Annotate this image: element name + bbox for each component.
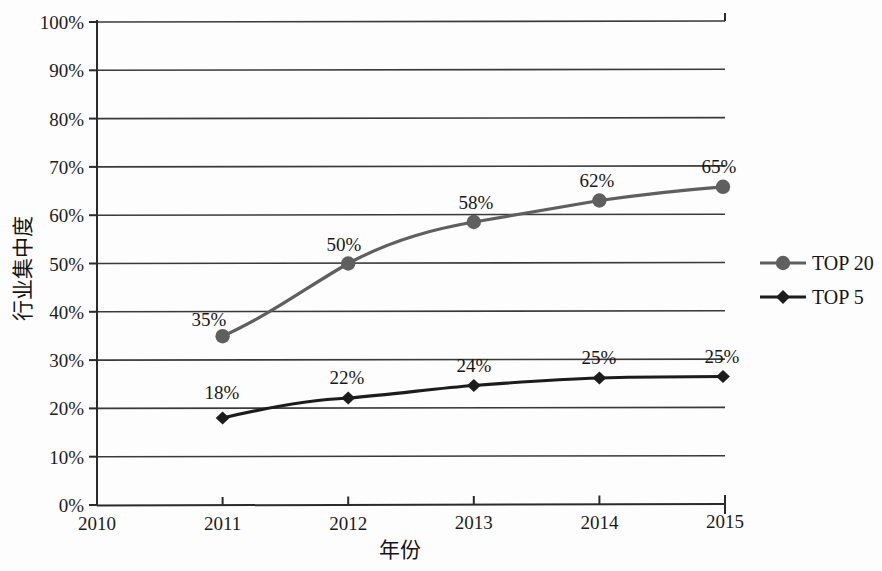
data-point-top20-2014[interactable]	[592, 193, 606, 207]
gridline-10	[97, 456, 725, 457]
data-label-top20-2015: 65%	[702, 156, 737, 177]
y-tick-label-50: 50%	[49, 254, 84, 275]
data-label-top5-2012: 22%	[330, 367, 365, 388]
x-tick-labels: 2010 2011 2012 2013 2014 2015	[78, 511, 744, 534]
gridline-90	[97, 69, 725, 70]
data-point-top20-2013[interactable]	[467, 215, 481, 229]
gridline-30	[97, 359, 725, 360]
data-point-top5-2012[interactable]	[341, 392, 355, 405]
data-label-top5-2011: 18%	[205, 382, 240, 403]
x-tick-label-2011: 2011	[204, 513, 241, 534]
x-tick-label-2015: 2015	[706, 511, 744, 532]
x-tick-label-2013: 2013	[455, 512, 493, 533]
y-axis-ticks	[89, 22, 97, 505]
x-axis-title: 年份	[379, 538, 421, 562]
data-label-top20-2013: 58%	[459, 192, 494, 213]
legend-item-top20[interactable]: TOP 20	[760, 252, 874, 274]
data-point-top5-2011[interactable]	[216, 412, 230, 425]
gridline-20	[97, 407, 725, 408]
x-tick-label-2012: 2012	[329, 513, 367, 534]
data-labels-top20: 35% 50% 58% 62% 65%	[192, 156, 737, 330]
data-point-top5-2015[interactable]	[716, 370, 730, 383]
chart-container: 100% 90% 80% 70% 60% 50% 40% 30% 20% 10%…	[0, 0, 882, 571]
data-label-top5-2015: 25%	[705, 346, 740, 367]
data-labels-top5: 18% 22% 24% 25% 25%	[205, 346, 740, 403]
data-label-top5-2013: 24%	[457, 355, 492, 376]
gridline-100	[97, 21, 725, 22]
y-tick-label-10: 10%	[49, 447, 84, 468]
y-tick-label-100: 100%	[40, 12, 85, 33]
legend-item-top5[interactable]: TOP 5	[760, 286, 864, 308]
y-tick-label-60: 60%	[49, 205, 84, 226]
data-label-top20-2012: 50%	[327, 234, 362, 255]
y-tick-label-40: 40%	[49, 302, 84, 323]
legend-marker-circle-icon	[776, 256, 790, 270]
data-point-top5-2014[interactable]	[593, 372, 607, 385]
y-tick-label-90: 90%	[49, 60, 84, 81]
data-point-top20-2015[interactable]	[716, 180, 730, 194]
y-tick-label-70: 70%	[49, 157, 84, 178]
legend-label-top20: TOP 20	[812, 252, 874, 274]
line-chart: 100% 90% 80% 70% 60% 50% 40% 30% 20% 10%…	[0, 0, 882, 571]
data-point-top5-2013[interactable]	[467, 379, 481, 392]
y-tick-label-20: 20%	[49, 398, 84, 419]
legend-marker-diamond-icon	[776, 290, 790, 304]
x-tick-label-2014: 2014	[580, 512, 619, 533]
y-tick-label-30: 30%	[49, 350, 84, 371]
data-label-top5-2014: 25%	[582, 347, 617, 368]
y-axis-title: 行业集中度	[11, 216, 35, 321]
data-point-top20-2011[interactable]	[215, 329, 229, 343]
legend-label-top5: TOP 5	[812, 286, 864, 308]
gridline-50	[97, 263, 725, 264]
x-tick-label-2010: 2010	[78, 513, 116, 534]
data-point-top20-2012[interactable]	[341, 256, 355, 270]
y-tick-labels: 100% 90% 80% 70% 60% 50% 40% 30% 20% 10%…	[40, 12, 85, 516]
data-label-top20-2011: 35%	[192, 309, 227, 330]
gridline-60	[97, 214, 725, 215]
gridline-80	[97, 118, 725, 119]
data-label-top20-2014: 62%	[580, 170, 615, 191]
legend: TOP 20 TOP 5	[760, 252, 874, 308]
y-tick-label-80: 80%	[49, 109, 84, 130]
x-axis-line	[97, 504, 725, 506]
gridline-70	[97, 166, 725, 167]
